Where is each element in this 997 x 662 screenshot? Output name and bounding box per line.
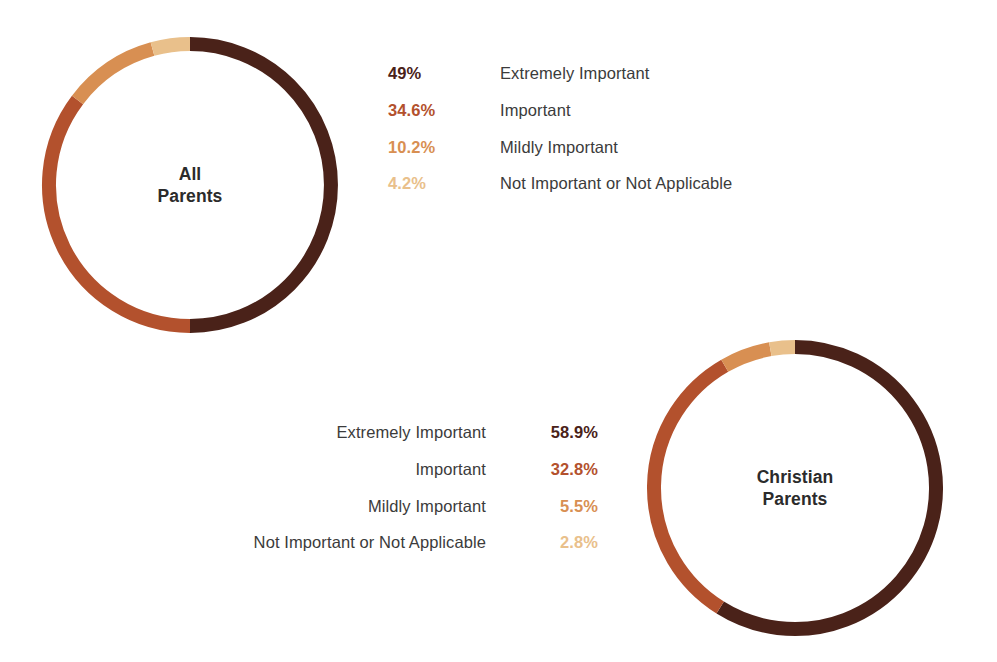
legend-row: 49%Extremely Important: [388, 64, 732, 101]
legend-label: Important: [150, 460, 486, 479]
legend-row: 34.6%Important: [388, 101, 732, 138]
legend-label: Mildly Important: [150, 497, 486, 516]
legend-value: 32.8%: [486, 460, 598, 479]
legend-row: Important32.8%: [150, 460, 598, 497]
donut-ring-all-parents: [40, 35, 340, 335]
legend-value: 10.2%: [388, 138, 500, 157]
donut-chart-all-parents: All Parents: [40, 35, 340, 335]
legend-label: Extremely Important: [150, 423, 486, 442]
donut-segment: [725, 349, 771, 366]
legend-value: 5.5%: [486, 497, 598, 516]
legend-value: 34.6%: [388, 101, 500, 120]
legend-value: 2.8%: [486, 533, 598, 552]
legend-label: Not Important or Not Applicable: [150, 533, 486, 552]
legend-row: Mildly Important5.5%: [150, 497, 598, 534]
donut-segment: [770, 347, 795, 349]
donut-segment: [720, 347, 936, 629]
legend-row: 10.2%Mildly Important: [388, 138, 732, 175]
legend-value: 49%: [388, 64, 500, 83]
legend-label: Mildly Important: [500, 138, 618, 157]
donut-segment: [190, 44, 331, 326]
donut-chart-christian-parents: Christian Parents: [645, 338, 945, 638]
legend-label: Important: [500, 101, 571, 120]
legend-all-parents: 49%Extremely Important34.6%Important10.2…: [388, 64, 732, 211]
legend-christian-parents: Extremely Important58.9%Important32.8%Mi…: [150, 423, 598, 570]
legend-label: Not Important or Not Applicable: [500, 174, 732, 193]
legend-value: 4.2%: [388, 174, 500, 193]
legend-label: Extremely Important: [500, 64, 650, 83]
legend-row: Extremely Important58.9%: [150, 423, 598, 460]
legend-row: 4.2%Not Important or Not Applicable: [388, 174, 732, 211]
donut-segment: [654, 366, 725, 608]
donut-segment: [152, 44, 190, 49]
donut-ring-christian-parents: [645, 338, 945, 638]
donut-segment: [49, 100, 190, 326]
donut-segment: [78, 49, 153, 100]
legend-value: 58.9%: [486, 423, 598, 442]
legend-row: Not Important or Not Applicable2.8%: [150, 533, 598, 570]
